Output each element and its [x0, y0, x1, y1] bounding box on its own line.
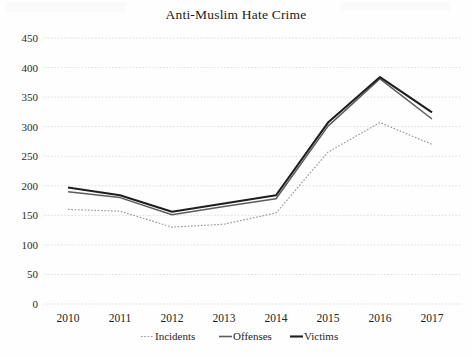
y-axis-tick-label: 150 — [22, 209, 39, 221]
legend-label-victims[interactable]: Victims — [304, 330, 338, 342]
chart-legend: IncidentsOffensesVictims — [141, 330, 338, 342]
y-axis-tick-label: 100 — [22, 239, 39, 251]
x-axis-tick-label: 2010 — [57, 312, 80, 324]
y-axis-tick-label: 400 — [22, 62, 39, 74]
x-axis-tick-label: 2011 — [109, 312, 132, 324]
x-axis-tick-label: 2014 — [265, 312, 288, 324]
series-line-incidents — [68, 123, 432, 228]
gridlines-group — [44, 38, 461, 304]
chart-container: Anti-Muslim Hate Crime 05010015020025030… — [0, 0, 472, 357]
y-axis-tick-label: 200 — [22, 180, 39, 192]
y-axis-tick-label: 250 — [22, 150, 39, 162]
legend-label-offenses[interactable]: Offenses — [233, 330, 272, 342]
y-axis-tick-label: 0 — [33, 298, 39, 310]
series-line-offenses — [68, 79, 432, 215]
x-axis-tick-label: 2013 — [213, 312, 236, 324]
y-axis-tick-label: 50 — [27, 268, 39, 280]
chart-plot-area: 050100150200250300350400450 201020112012… — [0, 0, 472, 357]
x-axis-tick-label: 2016 — [369, 312, 392, 324]
y-axis-tick-labels: 050100150200250300350400450 — [22, 32, 39, 310]
x-axis-tick-label: 2017 — [421, 312, 444, 324]
y-axis-tick-label: 350 — [22, 91, 39, 103]
legend-label-incidents[interactable]: Incidents — [155, 330, 195, 342]
x-axis-tick-label: 2012 — [161, 312, 184, 324]
y-axis-tick-label: 450 — [22, 32, 39, 44]
x-axis-tick-label: 2015 — [317, 312, 340, 324]
data-series-group — [68, 77, 432, 227]
x-axis-tick-labels: 20102011201220132014201520162017 — [57, 312, 444, 324]
y-axis-tick-label: 300 — [22, 121, 39, 133]
